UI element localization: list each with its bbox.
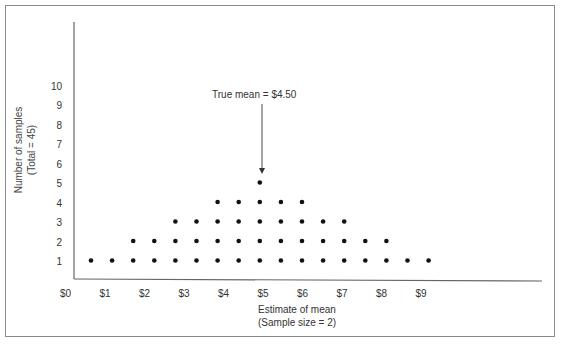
data-dot bbox=[300, 200, 305, 205]
data-dot bbox=[194, 239, 199, 244]
data-dot bbox=[426, 258, 431, 263]
data-dot bbox=[321, 239, 326, 244]
data-dot bbox=[215, 239, 220, 244]
data-dot bbox=[215, 219, 220, 224]
data-dot bbox=[300, 258, 305, 263]
y-tick-label: 3 bbox=[56, 217, 62, 228]
data-dot bbox=[321, 258, 326, 263]
y-axis-label: Number of samples bbox=[13, 107, 24, 194]
data-dot bbox=[236, 239, 241, 244]
arrow-down-icon bbox=[259, 168, 265, 174]
y-tick-label: 2 bbox=[56, 237, 62, 248]
data-dot bbox=[152, 258, 157, 263]
y-tick-label: 10 bbox=[51, 81, 63, 92]
data-dot bbox=[300, 219, 305, 224]
data-dot bbox=[258, 219, 263, 224]
dot-plot-chart: Number of samples (Total = 45) 123456789… bbox=[0, 0, 565, 349]
data-dot bbox=[258, 180, 263, 185]
data-dot bbox=[152, 239, 157, 244]
x-tick-label: $9 bbox=[416, 288, 428, 299]
data-dot bbox=[236, 200, 241, 205]
data-dot bbox=[258, 200, 263, 205]
y-tick-label: 1 bbox=[56, 256, 62, 267]
y-tick-label: 6 bbox=[56, 159, 62, 170]
x-tick-label: $7 bbox=[337, 288, 349, 299]
data-dot bbox=[215, 200, 220, 205]
x-tick-label: $3 bbox=[179, 288, 191, 299]
y-axis-sublabel: (Total = 45) bbox=[26, 125, 37, 175]
y-tick-label: 8 bbox=[56, 120, 62, 131]
x-axis-label: Estimate of mean bbox=[258, 304, 336, 315]
x-tick-label: $4 bbox=[218, 288, 230, 299]
x-tick-label: $8 bbox=[376, 288, 388, 299]
data-dot bbox=[384, 239, 389, 244]
data-dot bbox=[215, 258, 220, 263]
data-dot bbox=[279, 258, 284, 263]
x-axis-sublabel: (Sample size = 2) bbox=[258, 317, 336, 328]
x-axis bbox=[74, 279, 542, 281]
data-dot bbox=[342, 239, 347, 244]
x-tick-label: $2 bbox=[139, 288, 151, 299]
data-dot bbox=[300, 239, 305, 244]
data-dot bbox=[363, 239, 368, 244]
data-dot bbox=[173, 219, 178, 224]
x-tick-label: $0 bbox=[60, 288, 72, 299]
data-dot bbox=[405, 258, 410, 263]
data-dot bbox=[258, 258, 263, 263]
true-mean-annotation: True mean = $4.50 bbox=[212, 89, 297, 100]
data-dot bbox=[131, 258, 136, 263]
data-dot bbox=[131, 239, 136, 244]
data-dot bbox=[236, 258, 241, 263]
data-dot bbox=[279, 219, 284, 224]
data-dot bbox=[89, 258, 94, 263]
data-dot bbox=[342, 258, 347, 263]
x-tick-labels: $0$1$2$3$4$5$6$7$8$9 bbox=[60, 288, 427, 299]
data-dots bbox=[89, 180, 431, 263]
y-tick-label: 9 bbox=[56, 100, 62, 111]
data-dot bbox=[110, 258, 115, 263]
data-dot bbox=[363, 258, 368, 263]
y-tick-label: 5 bbox=[56, 178, 62, 189]
data-dot bbox=[173, 239, 178, 244]
data-dot bbox=[342, 219, 347, 224]
y-tick-labels: 12345678910 bbox=[51, 81, 63, 268]
data-dot bbox=[321, 219, 326, 224]
data-dot bbox=[194, 258, 199, 263]
data-dot bbox=[279, 239, 284, 244]
x-tick-label: $6 bbox=[297, 288, 309, 299]
data-dot bbox=[194, 219, 199, 224]
y-tick-label: 4 bbox=[56, 198, 62, 209]
y-tick-label: 7 bbox=[56, 139, 62, 150]
data-dot bbox=[279, 200, 284, 205]
data-dot bbox=[173, 258, 178, 263]
x-tick-label: $1 bbox=[100, 288, 112, 299]
data-dot bbox=[236, 219, 241, 224]
y-axis-title: Number of samples (Total = 45) bbox=[13, 107, 37, 194]
x-tick-label: $5 bbox=[258, 288, 270, 299]
data-dot bbox=[258, 239, 263, 244]
data-dot bbox=[384, 258, 389, 263]
